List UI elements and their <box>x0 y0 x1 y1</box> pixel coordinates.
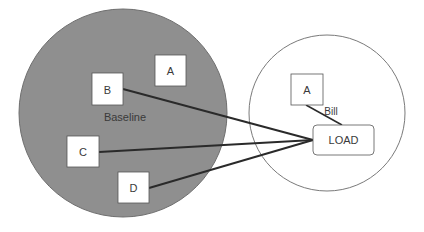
node-label: A <box>167 65 175 77</box>
diagram-canvas: B A C D Baseline A Bill LOAD <box>0 0 424 232</box>
node-label: LOAD <box>329 134 359 146</box>
node-baseline-a[interactable]: A <box>155 55 186 86</box>
node-label: B <box>104 84 111 96</box>
node-baseline-b[interactable]: B <box>92 73 123 105</box>
bill-label: Bill <box>324 106 337 117</box>
node-baseline-d[interactable]: D <box>118 172 149 203</box>
node-label: A <box>303 84 311 96</box>
node-label: C <box>79 146 87 158</box>
node-baseline-c[interactable]: C <box>67 136 99 167</box>
baseline-label: Baseline <box>104 111 146 123</box>
node-load[interactable]: LOAD <box>313 125 374 155</box>
node-label: D <box>130 182 138 194</box>
node-bill-a[interactable]: A <box>291 74 323 105</box>
